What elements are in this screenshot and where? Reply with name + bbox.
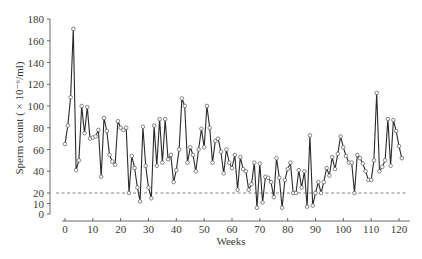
data-point-marker bbox=[272, 195, 276, 199]
data-point-marker bbox=[381, 165, 385, 169]
x-tick-label: 20 bbox=[115, 223, 127, 235]
data-point-marker bbox=[180, 97, 184, 101]
data-point-marker bbox=[364, 170, 368, 174]
x-tick-label: 80 bbox=[282, 223, 294, 235]
data-point-marker bbox=[147, 186, 151, 190]
data-point-marker bbox=[83, 131, 87, 135]
data-point-marker bbox=[161, 161, 165, 165]
data-point-marker bbox=[225, 148, 229, 152]
data-point-marker bbox=[266, 176, 270, 180]
data-point-marker bbox=[113, 163, 117, 167]
y-tick-label: 10 bbox=[33, 198, 45, 210]
y-tick-label: 40 bbox=[33, 165, 45, 177]
data-point-marker bbox=[136, 186, 140, 190]
data-point-marker bbox=[74, 168, 78, 172]
sperm-count-chart: 01020406080100120140160180 0102030405060… bbox=[0, 0, 422, 259]
x-tick-label: 90 bbox=[310, 223, 322, 235]
data-point-marker bbox=[369, 178, 373, 182]
data-point-marker bbox=[169, 153, 173, 157]
data-point-marker bbox=[336, 152, 340, 156]
data-point-marker bbox=[339, 135, 343, 139]
data-point-marker bbox=[328, 174, 332, 178]
data-point-marker bbox=[158, 117, 162, 121]
data-point-marker bbox=[150, 197, 154, 201]
x-tick-label: 50 bbox=[199, 223, 211, 235]
data-point-marker bbox=[200, 127, 204, 131]
data-point-marker bbox=[342, 146, 346, 150]
data-point-marker bbox=[172, 180, 176, 184]
data-point-marker bbox=[308, 134, 312, 138]
data-point-marker bbox=[322, 180, 326, 184]
data-point-marker bbox=[219, 150, 223, 154]
y-tick-label: 80 bbox=[33, 122, 45, 134]
x-tick-label: 30 bbox=[143, 223, 155, 235]
data-point-marker bbox=[163, 117, 167, 121]
data-point-marker bbox=[286, 167, 290, 171]
x-tick-label: 100 bbox=[335, 223, 352, 235]
x-tick-label: 10 bbox=[87, 223, 99, 235]
y-tick-label: 20 bbox=[33, 187, 45, 199]
x-tick-label: 0 bbox=[62, 223, 68, 235]
data-point-marker bbox=[278, 176, 282, 180]
data-point-marker bbox=[356, 153, 360, 157]
data-point-marker bbox=[289, 161, 293, 165]
data-point-marker bbox=[303, 170, 307, 174]
data-point-marker bbox=[108, 153, 112, 157]
data-point-marker bbox=[378, 170, 382, 174]
data-point-marker bbox=[317, 180, 321, 184]
data-point-marker bbox=[155, 164, 159, 168]
data-point-marker bbox=[375, 91, 379, 95]
data-point-marker bbox=[222, 172, 226, 176]
y-tick-label: 120 bbox=[28, 78, 45, 90]
data-point-marker bbox=[255, 206, 259, 210]
data-point-marker bbox=[353, 191, 357, 195]
y-tick-label: 140 bbox=[28, 57, 45, 69]
data-point-marker bbox=[116, 119, 120, 123]
y-tick-label: 0 bbox=[39, 208, 45, 220]
data-point-marker bbox=[333, 167, 337, 171]
data-point-marker bbox=[194, 170, 198, 174]
data-point-marker bbox=[305, 205, 309, 209]
data-point-marker bbox=[191, 153, 195, 157]
data-point-marker bbox=[269, 180, 273, 184]
data-point-marker bbox=[253, 161, 257, 165]
data-point-marker bbox=[124, 126, 128, 130]
data-point-marker bbox=[258, 162, 262, 166]
data-point-marker bbox=[397, 144, 401, 148]
data-point-marker bbox=[233, 153, 237, 157]
data-point-marker bbox=[344, 154, 348, 158]
data-point-marker bbox=[177, 148, 181, 152]
data-point-marker bbox=[183, 104, 187, 108]
data-point-marker bbox=[97, 128, 101, 132]
data-point-marker bbox=[63, 142, 67, 146]
data-point-marker bbox=[186, 161, 190, 165]
data-point-marker bbox=[72, 27, 76, 31]
data-point-marker bbox=[319, 191, 323, 195]
data-point-marker bbox=[300, 186, 304, 190]
data-point-marker bbox=[358, 156, 362, 160]
data-point-marker bbox=[372, 159, 376, 163]
y-tick-label: 180 bbox=[28, 13, 45, 25]
data-point-marker bbox=[350, 161, 354, 165]
data-points bbox=[63, 27, 403, 210]
x-axis-title: Weeks bbox=[216, 235, 245, 247]
data-point-marker bbox=[69, 96, 73, 100]
data-point-marker bbox=[227, 161, 231, 165]
data-point-marker bbox=[236, 188, 240, 192]
data-point-marker bbox=[280, 206, 284, 210]
data-point-marker bbox=[394, 129, 398, 133]
data-point-marker bbox=[197, 148, 201, 152]
y-axis: 01020406080100120140160180 bbox=[28, 13, 51, 220]
data-point-marker bbox=[86, 105, 90, 109]
data-point-marker bbox=[202, 146, 206, 150]
data-point-marker bbox=[66, 124, 70, 128]
data-point-marker bbox=[283, 178, 287, 182]
data-point-marker bbox=[133, 166, 137, 170]
data-point-marker bbox=[383, 159, 387, 163]
y-tick-label: 60 bbox=[33, 144, 45, 156]
x-tick-label: 60 bbox=[227, 223, 239, 235]
data-point-marker bbox=[294, 191, 298, 195]
data-point-marker bbox=[325, 166, 329, 170]
data-point-marker bbox=[111, 160, 115, 164]
data-point-marker bbox=[141, 125, 145, 129]
